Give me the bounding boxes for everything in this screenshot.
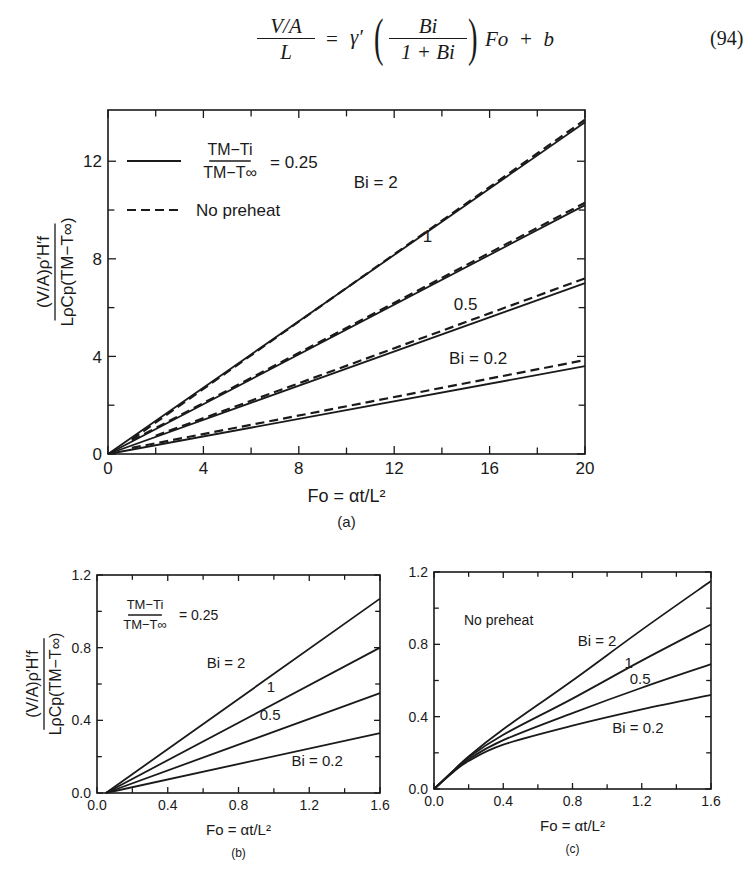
x-axis-title: Fo = αt/L²: [206, 821, 271, 838]
chart-caption: (c): [566, 842, 580, 856]
legend-solid-fraction-denominator: TM−T∞: [203, 164, 257, 181]
legend-solid-value: = 0.25: [270, 153, 318, 172]
series-annotation: Bi = 2: [207, 654, 246, 671]
y-tick-label: 1.2: [409, 564, 429, 580]
series-line: [434, 695, 711, 789]
x-tick-label: 4: [199, 459, 208, 478]
chart-a: 04812162004812Fo = αt/L²(a)(V/A)ρ′H′fLρC…: [34, 110, 594, 530]
y-tick-label: 0.8: [409, 636, 429, 652]
x-tick-label: 0.8: [229, 797, 249, 813]
inset-fraction-denominator: TM−T∞: [123, 617, 167, 632]
series-line: [106, 693, 380, 793]
chart-caption: (a): [337, 513, 355, 530]
chart-caption: (b): [231, 846, 246, 860]
y-tick-label: 4: [93, 348, 102, 367]
x-tick-label: 20: [576, 459, 595, 478]
x-tick-label: 16: [480, 459, 499, 478]
y-tick-label: 0.0: [72, 785, 92, 801]
series-annotation: 0.5: [454, 295, 478, 314]
x-tick-label: 0.4: [494, 793, 514, 809]
series-line: [156, 278, 585, 435]
inset-fraction-numerator: TM−Ti: [127, 597, 164, 612]
figure-charts: 04812162004812Fo = αt/L²(a)(V/A)ρ′H′fLρC…: [0, 0, 756, 879]
series-annotation: 1: [267, 678, 275, 695]
x-tick-label: 1.6: [370, 797, 390, 813]
x-tick-label: 8: [294, 459, 303, 478]
x-tick-label: 1.2: [632, 793, 652, 809]
x-tick-label: 0: [103, 459, 112, 478]
series-annotation: 0.5: [260, 706, 281, 723]
y-tick-label: 0.4: [72, 712, 92, 728]
y-tick-label: 1.2: [72, 567, 92, 583]
series-line: [108, 205, 585, 454]
series-line: [108, 283, 585, 454]
x-tick-label: 0.4: [158, 797, 178, 813]
y-axis-title-numerator: (V/A)ρ′H′f: [24, 650, 41, 718]
x-tick-label: 12: [385, 459, 404, 478]
series-annotation: Bi = 0.2: [292, 752, 343, 769]
y-axis-title: (V/A)ρ′H′fLρCp(TM−T∞): [34, 217, 77, 326]
series-annotation: 0.5: [630, 670, 651, 687]
inset-label: No preheat: [464, 612, 533, 628]
x-tick-label: 1.2: [300, 797, 320, 813]
x-axis-title: Fo = αt/L²: [308, 486, 386, 506]
y-tick-label: 0.0: [409, 781, 429, 797]
series-line: [108, 122, 585, 454]
series-annotation: Bi = 0.2: [449, 349, 507, 368]
legend-solid-fraction-numerator: TM−Ti: [207, 141, 252, 158]
y-tick-label: 0.4: [409, 709, 429, 725]
y-tick-label: 0.8: [72, 640, 92, 656]
series-annotation: Bi = 2: [578, 632, 617, 649]
y-tick-label: 12: [83, 152, 102, 171]
inset-value: = 0.25: [179, 607, 219, 623]
legend-dashed-label: No preheat: [196, 201, 280, 220]
series-annotation: Bi = 2: [354, 173, 398, 192]
x-tick-label: 0.8: [563, 793, 583, 809]
y-axis-title: (V/A)ρ′H′fLρCp(TM−T∞): [24, 633, 64, 736]
x-tick-label: 1.6: [701, 793, 721, 809]
y-tick-label: 0: [93, 445, 102, 464]
y-axis-title-numerator: (V/A)ρ′H′f: [34, 236, 53, 308]
y-axis-title-denominator: LρCp(TM−T∞): [58, 217, 77, 326]
series-annotation: 1: [423, 227, 432, 246]
chart-c: 0.00.40.81.21.60.00.40.81.2Fo = αt/L²(c)…: [409, 564, 721, 856]
legend: TM−TiTM−T∞= 0.25No preheat: [127, 141, 318, 220]
y-tick-label: 8: [93, 250, 102, 269]
x-axis-title: Fo = αt/L²: [540, 817, 605, 834]
series-line: [108, 366, 585, 454]
series-group: [108, 120, 585, 454]
series-line: [434, 624, 711, 789]
chart-b: 0.00.40.81.21.60.00.40.81.2Fo = αt/L²(b)…: [24, 567, 390, 860]
series-annotation: 1: [624, 654, 632, 671]
series-annotation: Bi = 0.2: [612, 719, 663, 736]
y-axis-title-denominator: LρCp(TM−T∞): [47, 633, 64, 736]
